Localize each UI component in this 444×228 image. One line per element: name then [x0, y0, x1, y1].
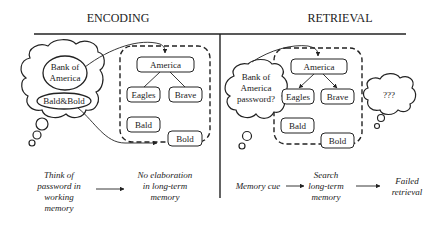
caption-failed-retrieval: Failed retrieval [392, 176, 423, 197]
svg-text:memory: memory [45, 203, 74, 213]
result-bubble-small [375, 124, 380, 129]
svg-text:America: America [304, 62, 335, 72]
cue-line3: password? [237, 94, 275, 104]
svg-text:memory: memory [312, 192, 341, 202]
svg-text:Bold: Bold [176, 134, 194, 144]
encoding-title: ENCODING [87, 11, 150, 25]
svg-text:in long-term: in long-term [143, 181, 188, 191]
svg-text:long-term: long-term [308, 181, 344, 191]
retrieval-title: RETRIEVAL [307, 11, 372, 25]
retrieval-bubble-small [239, 143, 245, 149]
result-bubble-large [378, 115, 385, 122]
svg-text:America: America [150, 60, 181, 70]
svg-text:Bald: Bald [289, 121, 306, 131]
thought-bubble-large [36, 118, 48, 130]
thought-bubble-medium [33, 131, 41, 139]
retrieval-bubble-large [243, 132, 252, 141]
retrieval-edge-eagles [299, 74, 314, 88]
svg-text:Eagles: Eagles [132, 90, 156, 100]
thought-bubble-small [29, 140, 35, 146]
svg-text:Failed: Failed [394, 176, 419, 186]
svg-text:Eagles: Eagles [286, 92, 310, 102]
unknown-result-label: ??? [383, 90, 395, 100]
encoding-caption-right: No elaboration in long-term memory [137, 170, 193, 202]
svg-text:retrieval: retrieval [392, 187, 423, 197]
cue-line2: America [241, 83, 272, 93]
svg-text:Bold: Bold [329, 136, 347, 146]
svg-text:Think of: Think of [44, 170, 75, 180]
svg-text:Brave: Brave [175, 90, 197, 100]
bank-of-america-line1: Bank of [51, 62, 80, 72]
retrieval-edge-brave [323, 74, 337, 88]
edge-america-eagles [144, 72, 160, 87]
encoding-caption-left: Think of password in working memory [36, 170, 81, 213]
svg-text:Bald: Bald [135, 120, 152, 130]
svg-text:No elaboration: No elaboration [137, 170, 193, 180]
caption-search-ltm: Search long-term memory [308, 170, 344, 202]
svg-text:working: working [44, 192, 74, 202]
svg-text:memory: memory [151, 192, 180, 202]
edge-america-brave [170, 72, 185, 87]
bald-bold-label: Bald&Bold [43, 96, 85, 106]
diagram-canvas: ENCODING RETRIEVAL Bank of America Bald&… [0, 0, 444, 228]
svg-text:password in: password in [36, 181, 81, 191]
svg-text:Search: Search [314, 170, 339, 180]
caption-memory-cue: Memory cue [235, 181, 281, 191]
svg-text:Brave: Brave [327, 92, 349, 102]
cue-line1: Bank of [242, 72, 271, 82]
bank-of-america-line2: America [50, 73, 81, 83]
